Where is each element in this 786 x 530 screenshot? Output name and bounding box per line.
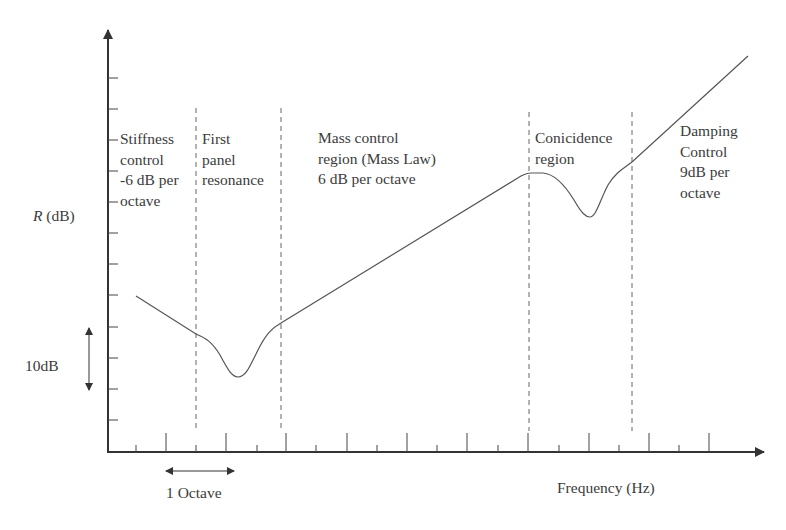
ten-db-label: 10dB: [25, 356, 59, 377]
y-axis-ticks: [108, 78, 118, 420]
region-label-damping: Damping Control 9dB per octave: [680, 121, 738, 203]
x-axis-label: Frequency (Hz): [557, 478, 655, 499]
region-label-coincidence: Conicidence region: [535, 128, 612, 169]
y-axis-variable: R: [33, 207, 42, 224]
x-axis-ticks: [136, 433, 709, 452]
y-axis-label: R (dB): [33, 206, 75, 227]
diagram-canvas: [0, 0, 786, 530]
octave-label: 1 Octave: [166, 483, 222, 504]
region-label-first-resonance: First panel resonance: [202, 129, 264, 191]
region-label-mass-law: Mass control region (Mass Law) 6 dB per …: [318, 128, 436, 190]
transmission-loss-curve: [136, 56, 748, 377]
y-axis-unit: (dB): [46, 207, 74, 224]
region-label-stiffness: Stiffness control -6 dB per octave: [120, 129, 179, 211]
